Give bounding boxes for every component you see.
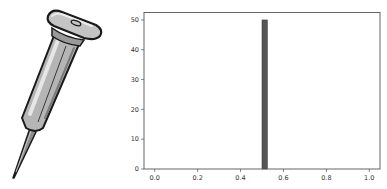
bars-group — [262, 20, 267, 169]
x-tick-label: 0.8 — [321, 174, 331, 182]
x-tick-label: 0.4 — [235, 174, 245, 182]
y-tick-label: 40 — [131, 46, 139, 54]
chart-svg: 0.00.20.40.60.81.0 01020304050 — [130, 0, 387, 189]
histogram-chart: 0.00.20.40.60.81.0 01020304050 — [130, 0, 387, 189]
x-tick-label: 0.6 — [278, 174, 288, 182]
histogram-bar — [262, 20, 267, 169]
y-tick-label: 30 — [131, 76, 139, 84]
x-axis-ticks: 0.00.20.40.60.81.0 — [150, 169, 375, 182]
y-tick-label: 50 — [131, 16, 139, 24]
x-tick-label: 0.2 — [192, 174, 202, 182]
y-tick-label: 0 — [135, 165, 139, 173]
push-pin-illustration — [0, 0, 130, 189]
x-tick-label: 1.0 — [364, 174, 374, 182]
y-tick-label: 20 — [131, 106, 139, 114]
y-axis-ticks: 01020304050 — [131, 16, 144, 173]
y-tick-label: 10 — [131, 135, 139, 143]
push-pin-icon — [0, 0, 130, 189]
x-tick-label: 0.0 — [150, 174, 160, 182]
